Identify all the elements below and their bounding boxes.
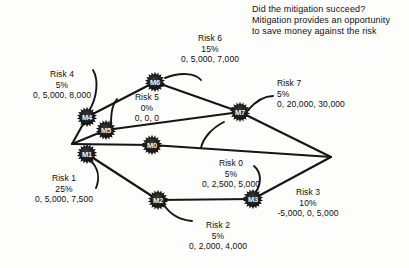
edge-M6-M7 <box>155 82 240 112</box>
risk-probability-risk0: 5% <box>202 169 260 180</box>
risk-label-risk1: Risk 125%0, 5,000, 7,500 <box>35 173 93 205</box>
risk-label-risk7: Risk 75%0, 20,000, 30,000 <box>277 78 345 110</box>
risk-probability-risk5: 0% <box>135 103 159 114</box>
risk-label-risk0: Risk 05%0, 2,500, 5,000 <box>202 158 260 190</box>
risk-name-risk7: Risk 7 <box>277 78 345 89</box>
risk-probability-risk4: 5% <box>33 80 91 91</box>
risk-label-risk3: Risk 310%-5,000, 0, 5,000 <box>277 187 338 219</box>
risk-values-risk3: -5,000, 0, 5,000 <box>277 208 338 219</box>
node-disc <box>98 122 113 137</box>
node-m6[interactable] <box>145 72 165 92</box>
risk-values-risk7: 0, 20,000, 30,000 <box>277 99 345 110</box>
node-m5[interactable] <box>96 120 116 140</box>
header-line-1: Did the mitigation succeed? <box>252 4 365 14</box>
node-disc <box>144 137 159 152</box>
risk-values-risk6: 0, 5,000, 7,000 <box>181 54 239 65</box>
edge-left_fan-M0 <box>72 144 152 145</box>
risk-values-risk5: 0, 0, 0 <box>135 113 159 124</box>
edge-M5-M7 <box>106 112 240 130</box>
node-disc <box>147 74 162 89</box>
risk-label-risk2: Risk 25%0, 2,000, 4,000 <box>189 220 247 252</box>
risk-probability-risk1: 25% <box>35 184 93 195</box>
node-disc <box>79 109 94 124</box>
leader-risk7 <box>248 96 273 110</box>
risk-label-risk6: Risk 615%0, 5,000, 7,000 <box>181 33 239 65</box>
risk-values-risk0: 0, 2,500, 5,000 <box>202 179 260 190</box>
leader-risk6 <box>165 74 201 80</box>
edge-M0-right_fan <box>152 145 331 157</box>
risk-label-risk4: Risk 45%0, 5,000, 8,000 <box>33 69 91 101</box>
risk-values-risk2: 0, 2,000, 4,000 <box>189 241 247 252</box>
risk-name-risk4: Risk 4 <box>33 69 91 80</box>
node-disc <box>79 146 94 161</box>
risk-name-risk0: Risk 0 <box>202 158 260 169</box>
risk-name-risk3: Risk 3 <box>277 187 338 198</box>
node-disc <box>245 191 260 206</box>
edge-M7-right_fan <box>240 112 331 157</box>
header-line-2: Mitigation provides an opportunity <box>252 15 390 25</box>
risk-values-risk4: 0, 5,000, 8,000 <box>33 90 91 101</box>
risk-probability-risk7: 5% <box>277 89 345 100</box>
leader-risk0 <box>201 122 224 148</box>
node-m3[interactable] <box>243 189 263 209</box>
node-m0[interactable] <box>142 135 162 155</box>
edge-M2-M3 <box>158 199 253 200</box>
node-m7[interactable] <box>230 102 250 122</box>
risk-name-risk6: Risk 6 <box>181 33 239 44</box>
risk-label-risk5: Risk 50%0, 0, 0 <box>135 92 159 124</box>
header-note: Did the mitigation succeed? Mitigation p… <box>252 4 390 37</box>
risk-probability-risk2: 5% <box>189 231 247 242</box>
risk-name-risk1: Risk 1 <box>35 173 93 184</box>
node-disc <box>150 192 165 207</box>
header-line-3: to save money against the risk <box>252 26 377 36</box>
risk-name-risk2: Risk 2 <box>189 220 247 231</box>
risk-values-risk1: 0, 5,000, 7,500 <box>35 194 93 205</box>
risk-probability-risk3: 10% <box>277 198 338 209</box>
risk-name-risk5: Risk 5 <box>135 92 159 103</box>
node-m1[interactable] <box>77 144 97 164</box>
leader-risk2 <box>164 205 192 221</box>
node-m4[interactable] <box>77 107 97 127</box>
risk-mitigation-diagram: Risk 05%0, 2,500, 5,000Risk 125%0, 5,000… <box>0 0 409 268</box>
node-disc <box>232 104 247 119</box>
risk-probability-risk6: 15% <box>181 44 239 55</box>
